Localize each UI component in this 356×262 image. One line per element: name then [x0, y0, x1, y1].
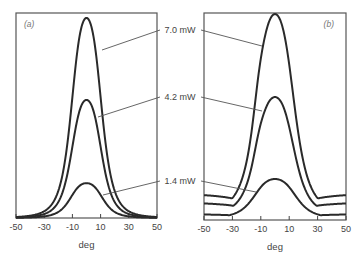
power-annotation: 1.4 mW — [164, 176, 196, 186]
x-tick-label: -30 — [226, 224, 239, 234]
leader-line-left — [98, 97, 160, 117]
x-tick-label: -30 — [38, 222, 51, 232]
x-tick-label: 30 — [313, 224, 323, 234]
x-tick-label: -50 — [9, 222, 22, 232]
leader-line-left — [102, 30, 160, 50]
leader-line-right — [201, 30, 262, 46]
power-annotation: 7.0 mW — [164, 25, 196, 35]
power-annotation: 4.2 mW — [164, 92, 196, 102]
x-tick-label: -50 — [197, 224, 210, 234]
panel-frame-b — [204, 13, 346, 220]
x-tick-label: 30 — [124, 222, 134, 232]
x-tick-label: 50 — [152, 222, 162, 232]
leader-line-right — [201, 97, 262, 111]
x-tick-label: 10 — [96, 222, 106, 232]
x-tick-label: -10 — [254, 224, 267, 234]
x-tick-label: 10 — [284, 224, 294, 234]
panel-label-b: (b) — [324, 19, 335, 29]
chart-canvas: (a)-50-30-10103050deg(b)-50-30-10103050d… — [0, 0, 356, 262]
curve-70-panel-b — [204, 14, 346, 198]
curve-42-panel-b — [204, 97, 346, 206]
curve-42-panel-a — [16, 100, 157, 218]
x-axis-label: deg — [267, 241, 283, 252]
panel-label-a: (a) — [24, 19, 35, 29]
x-tick-label: -10 — [66, 222, 79, 232]
curve-14-panel-a — [16, 183, 157, 218]
x-tick-label: 50 — [341, 224, 351, 234]
x-axis-label: deg — [79, 239, 95, 250]
